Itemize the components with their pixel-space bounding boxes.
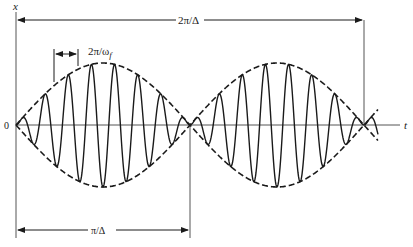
- x-axis-label: x: [12, 0, 18, 12]
- origin-label: 0: [4, 120, 9, 131]
- beat-period-label: 2π/Δ: [178, 14, 199, 26]
- half-beat-label: π/Δ: [91, 225, 106, 236]
- beat-diagram: x t 0 2π/Δ π/Δ 2π/ωf: [0, 0, 413, 247]
- t-axis-label: t: [404, 119, 408, 131]
- carrier-period-label: 2π/ωf: [88, 45, 113, 60]
